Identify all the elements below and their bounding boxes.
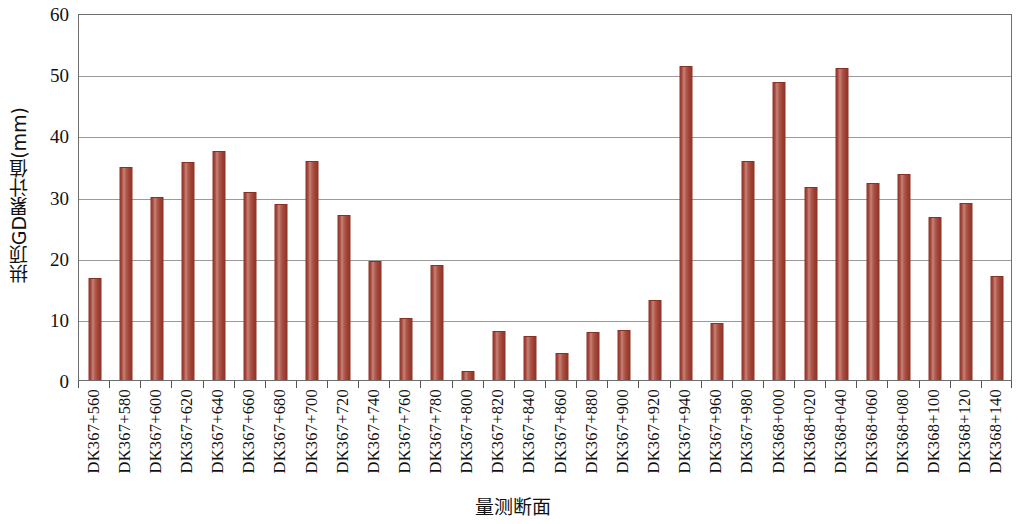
- bar-slot: [390, 15, 421, 380]
- bar[interactable]: [337, 215, 350, 380]
- x-tick-label: DK368+140: [983, 389, 1009, 489]
- x-tick-label-text: DK368+040: [831, 389, 851, 473]
- x-tick-label-text: DK367+880: [582, 389, 602, 473]
- bar[interactable]: [711, 323, 724, 380]
- bar[interactable]: [431, 265, 444, 380]
- bar[interactable]: [244, 192, 257, 380]
- x-tick-label: DK367+680: [267, 389, 293, 489]
- x-tick-label: DK368+020: [797, 389, 823, 489]
- bar-slot: [421, 15, 452, 380]
- y-tick-label: 20: [50, 249, 69, 268]
- x-tick-mark: [140, 381, 141, 388]
- x-tick-label: DK367+880: [579, 389, 605, 489]
- x-tick-label-text: DK367+680: [270, 389, 290, 473]
- bar[interactable]: [991, 276, 1004, 380]
- bar-slot: [141, 15, 172, 380]
- x-tick-label-text: DK367+700: [302, 389, 322, 473]
- bar-slot: [671, 15, 702, 380]
- bar[interactable]: [586, 332, 599, 380]
- bar[interactable]: [306, 161, 319, 380]
- x-tick-label: DK367+860: [548, 389, 574, 489]
- bar[interactable]: [213, 151, 226, 380]
- bar[interactable]: [742, 161, 755, 380]
- bar[interactable]: [493, 331, 506, 380]
- x-tick-mark: [763, 381, 764, 388]
- bar[interactable]: [929, 217, 942, 380]
- bar[interactable]: [898, 174, 911, 380]
- x-axis-tick-labels: DK367+560DK367+580DK367+600DK367+620DK36…: [78, 389, 1012, 489]
- bar[interactable]: [150, 197, 163, 380]
- x-tick-label: DK367+920: [641, 389, 667, 489]
- bar[interactable]: [119, 167, 132, 380]
- x-tick-label: DK368+100: [921, 389, 947, 489]
- bar-slot: [546, 15, 577, 380]
- bar-slot: [172, 15, 203, 380]
- x-tick-mark: [109, 381, 110, 388]
- x-tick-label-text: DK368+100: [924, 389, 944, 473]
- x-tick-mark: [701, 381, 702, 388]
- bar-slot: [110, 15, 141, 380]
- bar[interactable]: [773, 82, 786, 380]
- bar[interactable]: [960, 203, 973, 380]
- bar[interactable]: [866, 183, 879, 380]
- x-tick-label-text: DK367+920: [644, 389, 664, 473]
- x-tick-label-text: DK367+960: [706, 389, 726, 473]
- x-tick-mark: [265, 381, 266, 388]
- x-tick-label-text: DK367+760: [395, 389, 415, 473]
- x-tick-mark: [452, 381, 453, 388]
- bar-slot: [484, 15, 515, 380]
- x-tick-mark: [638, 381, 639, 388]
- x-tick-mark: [545, 381, 546, 388]
- x-tick-label: DK368+120: [952, 389, 978, 489]
- bar[interactable]: [88, 278, 101, 380]
- x-tick-label: DK368+000: [766, 389, 792, 489]
- bar[interactable]: [835, 68, 848, 380]
- bar-slot: [328, 15, 359, 380]
- bar[interactable]: [804, 187, 817, 380]
- bar[interactable]: [399, 318, 412, 380]
- bar[interactable]: [555, 353, 568, 380]
- plot-area: [78, 14, 1012, 381]
- bar[interactable]: [524, 336, 537, 380]
- bar-slot: [702, 15, 733, 380]
- x-tick-label: DK367+840: [516, 389, 542, 489]
- bar-slot: [639, 15, 670, 380]
- bar-slot: [764, 15, 795, 380]
- y-tick-label: 50: [50, 66, 69, 85]
- bar[interactable]: [181, 162, 194, 380]
- x-tick-label: DK367+700: [299, 389, 325, 489]
- bar-slot: [951, 15, 982, 380]
- x-tick-label: DK367+980: [734, 389, 760, 489]
- bar[interactable]: [462, 371, 475, 380]
- bar[interactable]: [368, 261, 381, 380]
- x-tick-label-text: DK367+640: [208, 389, 228, 473]
- x-tick-label-text: DK368+000: [769, 389, 789, 473]
- x-tick-mark: [887, 381, 888, 388]
- bar-slot: [733, 15, 764, 380]
- x-tick-label: DK367+760: [392, 389, 418, 489]
- x-tick-label-text: DK367+800: [457, 389, 477, 473]
- bars-layer: [79, 15, 1011, 380]
- bar[interactable]: [648, 300, 661, 380]
- x-tick-mark: [327, 381, 328, 388]
- y-tick-label: 10: [50, 310, 69, 329]
- x-tick-mark: [358, 381, 359, 388]
- bar-slot: [982, 15, 1013, 380]
- bar-slot: [297, 15, 328, 380]
- x-tick-label: DK367+820: [485, 389, 511, 489]
- y-axis-tick-labels: 0102030405060: [30, 0, 74, 400]
- bar[interactable]: [680, 66, 693, 380]
- x-tick-mark: [171, 381, 172, 388]
- x-tick-label: DK367+900: [610, 389, 636, 489]
- x-tick-mark: [919, 381, 920, 388]
- x-tick-label: DK368+060: [859, 389, 885, 489]
- bar-slot: [857, 15, 888, 380]
- x-tick-label-text: DK367+980: [737, 389, 757, 473]
- bar[interactable]: [617, 330, 630, 380]
- bar-slot: [888, 15, 919, 380]
- bar[interactable]: [275, 204, 288, 380]
- x-tick-mark: [203, 381, 204, 388]
- x-tick-mark: [420, 381, 421, 388]
- x-tick-mark: [856, 381, 857, 388]
- x-tick-label-text: DK367+600: [146, 389, 166, 473]
